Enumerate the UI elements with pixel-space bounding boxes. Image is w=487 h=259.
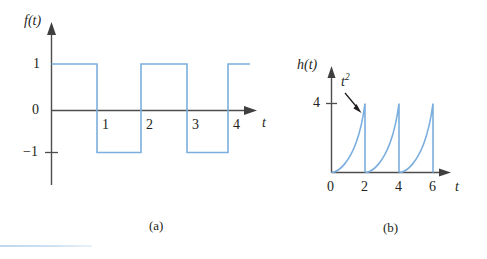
- panel-b-y-axis-label: h(t): [297, 58, 317, 72]
- panel-b-x-axis-label: t: [455, 180, 459, 194]
- panel-b-y-axis: [328, 66, 336, 173]
- figure-container: f(t) 1 0 −1 1 2 3 4 t (a) h: [0, 0, 487, 259]
- panel-b-annotation-exponent: 2: [345, 72, 350, 82]
- panel-b-curve-annotation: t2: [341, 75, 350, 89]
- panel-b-graphic: [0, 0, 487, 259]
- panel-b-arc-3: [400, 104, 434, 173]
- panel-b-xtick-4: 4: [395, 180, 402, 194]
- bottom-divider-rule: [0, 245, 92, 247]
- panel-b-xtick-6: 6: [429, 180, 436, 194]
- panel-b-sawtooth-waveform: [332, 104, 434, 173]
- panel-b-arc-2: [366, 104, 400, 173]
- panel-b-annotation-arrow: [345, 93, 362, 113]
- panel-b-arc-1: [332, 104, 366, 173]
- panel-b-ytick-4: 4: [313, 96, 320, 110]
- panel-b-xtick-0: 0: [327, 180, 334, 194]
- panel-b-caption: (b): [383, 220, 398, 236]
- panel-b-xtick-2: 2: [361, 180, 368, 194]
